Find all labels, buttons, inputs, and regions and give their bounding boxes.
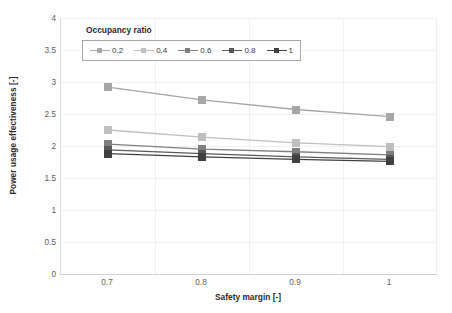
y-tick-label: 3.5 — [22, 46, 60, 55]
data-point-marker — [198, 96, 206, 104]
legend-item-label: 0.4 — [156, 46, 167, 55]
chart-legend: 0.20.40.60.81 — [82, 40, 301, 61]
x-tick-label: 0.8 — [195, 278, 206, 287]
data-point-marker — [292, 155, 300, 163]
legend-swatch-icon — [90, 46, 110, 55]
legend-item-0.8[interactable]: 0.8 — [222, 46, 255, 55]
y-tick-label: 3 — [22, 78, 60, 87]
data-point-marker — [292, 106, 300, 114]
y-tick-label: 2 — [22, 142, 60, 151]
legend-swatch-icon — [267, 46, 287, 55]
y-tick-label: 1.5 — [22, 174, 60, 183]
legend-title: Occupancy ratio — [86, 25, 152, 35]
data-point-marker — [292, 139, 300, 147]
legend-item-label: 1 — [289, 46, 293, 55]
x-tick-label: 1 — [387, 278, 392, 287]
chart-container: Power usage effectiveness [-] 00.511.522… — [0, 0, 452, 313]
data-point-marker — [104, 83, 112, 91]
legend-item-label: 0.8 — [244, 46, 255, 55]
series-line-0.2 — [108, 87, 390, 116]
series-line-0.6 — [108, 144, 390, 155]
legend-item-0.2[interactable]: 0.2 — [90, 46, 123, 55]
series-line-0.4 — [108, 130, 390, 147]
y-axis-title-label: Power usage effectiveness [-] — [9, 76, 18, 194]
x-tick-label: 0.7 — [101, 278, 112, 287]
legend-swatch-icon — [134, 46, 154, 55]
legend-item-0.4[interactable]: 0.4 — [134, 46, 167, 55]
data-point-marker — [198, 133, 206, 141]
y-tick-label: 4 — [22, 14, 60, 23]
x-tick-label: 0.9 — [289, 278, 300, 287]
y-tick-label: 1 — [22, 206, 60, 215]
legend-item-0.6[interactable]: 0.6 — [178, 46, 211, 55]
data-point-marker — [198, 153, 206, 161]
legend-swatch-icon — [222, 46, 242, 55]
legend-item-label: 0.2 — [112, 46, 123, 55]
y-tick-label: 2.5 — [22, 110, 60, 119]
data-point-marker — [386, 157, 394, 165]
x-axis-title: Safety margin [-] — [60, 292, 436, 302]
y-tick-label: 0 — [22, 270, 60, 279]
x-axis-tick-labels: 0.70.80.91 — [60, 278, 436, 292]
y-axis-tick-labels: 00.511.522.533.54 — [18, 0, 60, 313]
legend-item-1[interactable]: 1 — [267, 46, 293, 55]
legend-item-label: 0.6 — [200, 46, 211, 55]
data-point-marker — [386, 113, 394, 121]
legend-swatch-icon — [178, 46, 198, 55]
y-tick-label: 0.5 — [22, 238, 60, 247]
data-point-marker — [386, 143, 394, 151]
data-point-marker — [104, 150, 112, 158]
data-point-marker — [104, 126, 112, 134]
